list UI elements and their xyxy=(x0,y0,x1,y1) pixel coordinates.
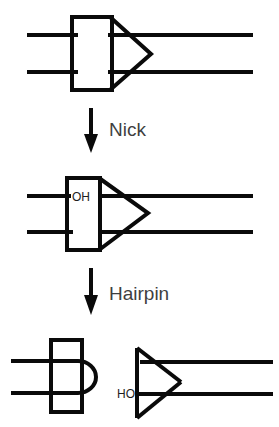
panel-middle-nicked-duplex: OH xyxy=(27,178,253,250)
label-hydroxyl-ho: HO xyxy=(117,387,135,401)
arrow-hairpin-group xyxy=(84,268,98,315)
panel-bottom-hairpin-loop xyxy=(11,340,96,412)
bl-box-motif xyxy=(51,340,82,412)
mid-chevron-icon xyxy=(99,178,148,250)
diagram-canvas: Nick OH Hairpin xyxy=(0,0,279,427)
top-box-motif xyxy=(72,17,112,90)
panel-bottom-cleaved-end: HO xyxy=(117,348,273,418)
hairpin-arrow-head-icon xyxy=(84,295,98,315)
diagram-svg: Nick OH Hairpin xyxy=(0,0,279,427)
arrow-nick-group xyxy=(84,108,98,153)
step-label-nick: Nick xyxy=(109,119,146,140)
top-chevron-icon xyxy=(110,17,151,90)
nick-arrow-head-icon xyxy=(84,134,98,153)
step-label-hairpin: Hairpin xyxy=(109,283,169,304)
panel-top-intact-duplex xyxy=(27,17,253,90)
label-hydroxyl-oh: OH xyxy=(72,190,90,204)
br-triangle-lower-diagonal xyxy=(137,382,181,418)
br-triangle-upper-diagonal xyxy=(137,348,181,382)
